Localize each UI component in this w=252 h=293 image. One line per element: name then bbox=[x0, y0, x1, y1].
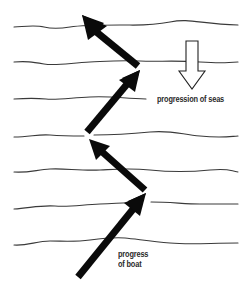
boat-arrow-4 bbox=[82, 15, 138, 66]
wave-line-6b bbox=[151, 202, 238, 204]
wave-line-6a bbox=[14, 202, 138, 209]
wave-line-4b bbox=[94, 131, 238, 137]
boat-arrow-2 bbox=[89, 139, 145, 190]
wave-line-3 bbox=[14, 97, 146, 100]
boat-arrows bbox=[78, 15, 146, 277]
seas-direction-arrow bbox=[179, 41, 205, 89]
wave-line-7 bbox=[14, 238, 238, 246]
wave-line-2 bbox=[14, 61, 238, 65]
progression-of-seas-label: progression of seas bbox=[157, 94, 224, 104]
progress-of-boat-line-1: progress bbox=[118, 249, 148, 259]
progress-of-boat-label: progress of boat bbox=[118, 249, 148, 269]
wave-line-1 bbox=[14, 21, 238, 29]
wave-line-4a bbox=[14, 135, 84, 137]
boat-arrow-3 bbox=[87, 70, 140, 132]
progress-of-boat-line-2: of boat bbox=[118, 259, 148, 269]
